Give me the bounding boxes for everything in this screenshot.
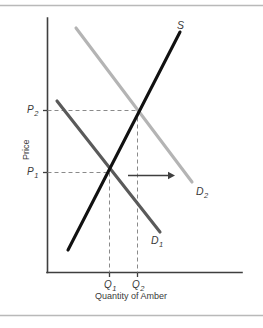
demand-shift-arrow-head: [168, 172, 175, 179]
demand-curve-d2: [76, 28, 192, 182]
y-tick-label-p1-subscript: 1: [34, 171, 38, 180]
y-axis-title: Price: [22, 139, 31, 160]
y-tick-label-p2-subscript: 2: [34, 109, 38, 118]
x-tick-label-q2: Q2: [132, 280, 144, 290]
supply-curve-label: S: [177, 20, 184, 31]
x-tick-label-q2-subscript: 2: [140, 284, 144, 293]
demand-curve-d1-label-subscript: 1: [159, 240, 163, 249]
x-tick-label-q1-base: Q: [104, 279, 112, 290]
supply-demand-figure: Price Quantity of Amber P2 P1 Q1 Q2 S D2…: [0, 0, 263, 328]
y-tick-label-p2-base: P: [27, 104, 34, 115]
demand-curve-d2-label: D2: [196, 186, 208, 197]
y-tick-label-p2: P2: [27, 105, 38, 115]
x-tick-label-q1-subscript: 1: [112, 284, 116, 293]
demand-curve-d1-label-base: D: [151, 234, 159, 246]
supply-curve-s: [68, 32, 180, 250]
x-tick-label-q1: Q1: [104, 280, 116, 290]
x-axis-title: Quantity of Amber: [95, 292, 167, 301]
demand-curve-d2-label-subscript: 2: [204, 191, 208, 200]
x-tick-label-q2-base: Q: [132, 279, 140, 290]
demand-curve-d1-label: D1: [151, 235, 163, 246]
demand-curve-d2-label-base: D: [196, 185, 204, 197]
y-tick-label-p1-base: P: [27, 166, 34, 177]
y-tick-label-p1: P1: [27, 167, 38, 177]
